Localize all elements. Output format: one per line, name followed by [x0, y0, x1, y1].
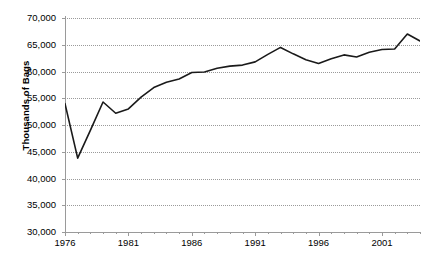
x-axis-tick-minor: [293, 232, 294, 234]
x-axis-tick-minor: [116, 232, 117, 234]
x-axis-tick-label: 1986: [172, 238, 212, 248]
x-axis-tick-minor: [141, 232, 142, 234]
x-axis-tick-minor: [90, 232, 91, 234]
y-axis-tick-label: 35,000: [0, 200, 56, 210]
y-axis-tick-label: 65,000: [0, 40, 56, 50]
y-axis-tick-label: 40,000: [0, 174, 56, 184]
x-axis-tick-minor: [357, 232, 358, 234]
x-axis-tick-label: 1976: [45, 238, 85, 248]
y-axis-tick-label: 55,000: [0, 93, 56, 103]
y-axis-tick-label: 70,000: [0, 13, 56, 23]
x-axis-tick-major: [128, 232, 129, 236]
x-axis-tick-minor: [179, 232, 180, 234]
x-axis-tick-minor: [281, 232, 282, 234]
x-axis-tick-minor: [331, 232, 332, 234]
x-axis-tick-label: 1981: [108, 238, 148, 248]
y-axis-tick-label: 45,000: [0, 147, 56, 157]
x-axis-tick-minor: [369, 232, 370, 234]
x-axis-tick-minor: [78, 232, 79, 234]
y-axis-tick-label: 60,000: [0, 67, 56, 77]
x-axis-tick-minor: [204, 232, 205, 234]
x-axis-tick-minor: [407, 232, 408, 234]
x-axis-tick-minor: [103, 232, 104, 234]
x-axis-tick-minor: [243, 232, 244, 234]
x-axis-tick-minor: [154, 232, 155, 234]
plot-area: [65, 18, 420, 232]
x-axis-tick-major: [192, 232, 193, 236]
x-axis-tick-label: 1996: [299, 238, 339, 248]
x-axis-tick-minor: [268, 232, 269, 234]
x-axis-tick-minor: [166, 232, 167, 234]
x-axis-tick-minor: [217, 232, 218, 234]
x-axis-tick-major: [65, 232, 66, 236]
x-axis-tick-major: [319, 232, 320, 236]
y-axis-tick-label: 30,000: [0, 227, 56, 237]
y-axis-tick-label: 50,000: [0, 120, 56, 130]
x-axis-tick-major: [382, 232, 383, 236]
x-axis-tick-minor: [420, 232, 421, 234]
x-axis-tick-minor: [306, 232, 307, 234]
x-axis-tick-label: 2001: [362, 238, 402, 248]
x-axis-tick-minor: [395, 232, 396, 234]
chart-container: Thousands of Bags 70,00065,00060,00055,0…: [0, 0, 431, 264]
x-axis-tick-minor: [344, 232, 345, 234]
data-series-line: [65, 34, 420, 158]
x-axis-tick-label: 1991: [235, 238, 275, 248]
x-axis-tick-minor: [230, 232, 231, 234]
x-axis-tick-major: [255, 232, 256, 236]
